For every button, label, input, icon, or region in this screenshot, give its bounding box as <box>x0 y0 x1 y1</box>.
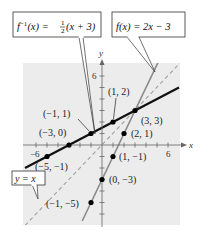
x-axis-label: x <box>188 140 193 150</box>
label-m3-0: (−3, 0) <box>39 127 66 139</box>
label-m1-m5: (−1, −5) <box>46 198 79 210</box>
label-0-m3: (0, −3) <box>109 174 136 186</box>
label-2-1: (2, 1) <box>131 128 153 140</box>
svg-text:f(x) = 2x − 3: f(x) = 2x − 3 <box>116 21 170 33</box>
label-1-2: (1, 2) <box>108 86 130 98</box>
graph: −6 6 6 x y (−5, −1) (−3, 0) (−1, 1) (1, … <box>0 0 207 234</box>
point-m1-1 <box>88 131 93 136</box>
svg-text:2: 2 <box>61 27 65 35</box>
point-m1-m5 <box>88 200 93 205</box>
label-3-3: (3, 3) <box>141 115 163 127</box>
point-3-3 <box>132 108 137 113</box>
label-1-m1: (1, −1) <box>119 151 146 163</box>
svg-text:1: 1 <box>61 19 65 27</box>
svg-text:y = x: y = x <box>14 173 36 184</box>
point-2-1 <box>121 131 126 136</box>
point-0-m3 <box>99 177 104 182</box>
svg-text:(x + 3): (x + 3) <box>66 21 96 33</box>
x-tick-label-neg6: −6 <box>30 149 40 159</box>
x-axis-arrow-icon <box>181 143 187 148</box>
point-1-m1 <box>110 154 115 159</box>
point-m3-0 <box>66 142 71 147</box>
y-axis-arrow-icon <box>100 59 105 65</box>
y-tick-label-6: 6 <box>92 71 97 81</box>
label-m1-1: (−1, 1) <box>43 108 70 120</box>
point-1-2 <box>110 119 115 124</box>
point-m5-m1 <box>44 154 49 159</box>
y-axis-label: y <box>98 48 103 58</box>
x-tick-label-6: 6 <box>166 149 171 159</box>
